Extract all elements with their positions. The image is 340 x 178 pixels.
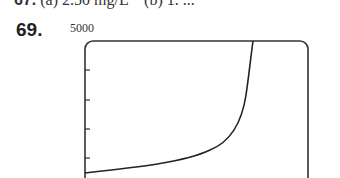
graph-frame xyxy=(85,41,308,178)
data-curve xyxy=(85,41,253,173)
chart xyxy=(0,0,340,178)
